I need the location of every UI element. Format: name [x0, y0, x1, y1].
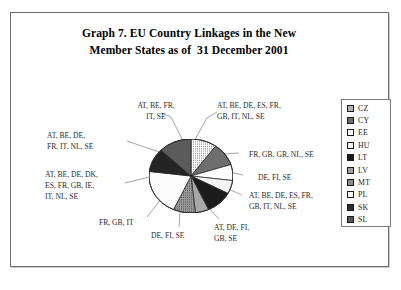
- legend-label-sk: SK: [358, 203, 368, 212]
- legend-label-mt: MT: [358, 178, 370, 187]
- legend-label-lt: LT: [358, 153, 367, 162]
- slice-label-lt: AT, BE, DE, ES, FR, GB, IT, NL, SE: [249, 191, 335, 213]
- legend-swatch-sk: [347, 204, 354, 211]
- legend-item-ee: EE: [342, 127, 390, 139]
- legend-item-pl: PL: [342, 189, 390, 201]
- legend-swatch-sl: [347, 216, 354, 223]
- legend-item-cz: CZ: [342, 102, 390, 114]
- legend-item-mt: MT: [342, 176, 390, 188]
- legend-item-lt: LT: [342, 152, 390, 164]
- legend-item-sk: SK: [342, 201, 390, 213]
- slice-label-sk: AT, BE, DE, DK, ES, FR, GB, IE, IT, NL, …: [45, 170, 125, 202]
- legend-swatch-cz: [347, 105, 354, 112]
- legend-item-hu: HU: [342, 139, 390, 151]
- slice-label-ee: FR, GB, GR, NL, SE: [249, 150, 335, 161]
- legend-label-cy: CY: [358, 116, 369, 125]
- chart-title-line-2: Member States as of 31 December 2001: [39, 42, 339, 59]
- legend-swatch-lt: [347, 154, 354, 161]
- pie-svg: [149, 139, 233, 213]
- chart-title: Graph 7. EU Country Linkages in the New …: [39, 25, 339, 58]
- legend-swatch-cy: [347, 117, 354, 124]
- chart-title-line-1: Graph 7. EU Country Linkages in the New: [39, 25, 339, 42]
- slice-label-lv: AT, DE, FI, GB, SE: [214, 223, 274, 245]
- legend-label-hu: HU: [358, 141, 370, 150]
- legend-swatch-pl: [347, 191, 354, 198]
- chart-legend: CZ CY EE HU LT LV MT PL: [341, 99, 391, 227]
- slice-label-cy: AT, BE, DE, ES, FR, GB, IT, NL, SE: [217, 101, 309, 123]
- legend-swatch-mt: [347, 179, 354, 186]
- legend-swatch-hu: [347, 142, 354, 149]
- slice-label-cz: AT, BE, FR, IT, SE: [121, 101, 191, 123]
- legend-item-cy: CY: [342, 114, 390, 126]
- legend-label-lv: LV: [358, 166, 368, 175]
- slice-label-pl: FR, GB, IT: [99, 218, 159, 229]
- legend-swatch-ee: [347, 129, 354, 136]
- legend-item-lv: LV: [342, 164, 390, 176]
- figure-frame: Graph 7. EU Country Linkages in the New …: [10, 12, 389, 267]
- legend-label-sl: SL: [358, 215, 368, 224]
- slice-label-sl: AT, BE, DE, FR, IT, NL, SE: [47, 131, 123, 153]
- legend-item-sl: SL: [342, 214, 390, 226]
- slice-label-mt: DE, FI, SE: [151, 231, 215, 242]
- pie-chart: [149, 139, 233, 213]
- slice-label-hu: DE, FI, SE: [258, 173, 328, 184]
- legend-label-cz: CZ: [358, 104, 368, 113]
- legend-label-pl: PL: [358, 190, 368, 199]
- legend-swatch-lv: [347, 167, 354, 174]
- legend-label-ee: EE: [358, 128, 368, 137]
